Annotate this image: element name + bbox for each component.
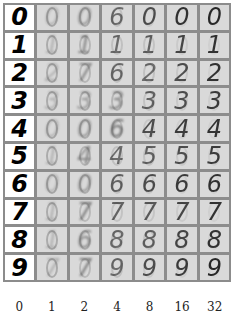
reconstructed-digit-glyph: 2 xyxy=(174,61,189,85)
reconstructed-digit-glyph: 0 xyxy=(44,5,59,29)
reconstructed-digit-glyph: 0 xyxy=(77,117,92,141)
reconstructed-digit-glyph: 3 xyxy=(44,89,59,113)
reconstructed-digit-glyph: 6 xyxy=(109,5,124,29)
column-label: 32 xyxy=(198,300,231,314)
reconstructed-digit-glyph: 6 xyxy=(77,228,92,252)
reconstructed-digit-glyph: 7 xyxy=(77,61,92,85)
reconstructed-digit-glyph: 4 xyxy=(109,144,124,168)
reconstruction-cell: 9 xyxy=(102,255,131,280)
reconstruction-cell: 7 xyxy=(70,200,99,225)
reconstructed-digit-glyph: 7 xyxy=(77,256,92,280)
digit-glyph: 2 xyxy=(11,61,28,85)
reconstructed-digit-glyph: 3 xyxy=(207,89,222,113)
original-digit-cell: 5 xyxy=(5,144,34,169)
reconstruction-cell: 6 xyxy=(102,5,131,30)
reconstructed-digit-glyph: 1 xyxy=(44,144,59,168)
reconstructed-digit-glyph: 7 xyxy=(207,200,222,224)
reconstructed-digit-glyph: 0 xyxy=(44,117,59,141)
digit-glyph: 3 xyxy=(11,89,28,113)
reconstruction-cell: 7 xyxy=(200,200,229,225)
digit-glyph: 1 xyxy=(11,33,28,57)
reconstructed-digit-glyph: 9 xyxy=(142,256,157,280)
reconstructed-digit-glyph: 5 xyxy=(142,144,157,168)
reconstructed-digit-glyph: 2 xyxy=(207,61,222,85)
reconstruction-cell: 4 xyxy=(135,116,164,141)
reconstruction-cell: 1 xyxy=(200,33,229,58)
reconstructed-digit-glyph: 1 xyxy=(44,228,59,252)
original-digit-cell: 0 xyxy=(5,5,34,30)
reconstructed-digit-glyph: 3 xyxy=(174,89,189,113)
reconstructed-digit-glyph: 5 xyxy=(174,144,189,168)
digit-glyph: 6 xyxy=(11,172,28,196)
reconstruction-cell: 6 xyxy=(135,172,164,197)
column-label: 8 xyxy=(133,300,166,314)
reconstructed-digit-glyph: 6 xyxy=(174,172,189,196)
reconstructed-digit-glyph: 4 xyxy=(142,117,157,141)
reconstruction-cell: 4 xyxy=(167,116,196,141)
reconstructed-digit-glyph: 4 xyxy=(207,117,222,141)
reconstruction-cell: 7 xyxy=(167,200,196,225)
reconstruction-cell: 1 xyxy=(135,33,164,58)
digit-glyph: 7 xyxy=(11,200,28,224)
reconstructed-digit-glyph: 4 xyxy=(174,117,189,141)
reconstruction-cell: 3 xyxy=(70,88,99,113)
reconstructed-digit-glyph: 0 xyxy=(174,5,189,29)
reconstruction-cell: 6 xyxy=(102,116,131,141)
reconstruction-cell: 9 xyxy=(200,255,229,280)
digit-glyph: 8 xyxy=(11,228,28,252)
original-digit-cell: 6 xyxy=(5,172,34,197)
reconstruction-cell: 0 xyxy=(200,5,229,30)
reconstructed-digit-glyph: 8 xyxy=(174,228,189,252)
reconstructed-digit-glyph: 1 xyxy=(77,33,92,57)
reconstruction-cell: 3 xyxy=(167,88,196,113)
reconstruction-cell: 7 xyxy=(70,61,99,86)
reconstruction-cell: 5 xyxy=(167,144,196,169)
reconstruction-cell: 1 xyxy=(37,227,66,252)
reconstruction-cell: 5 xyxy=(200,144,229,169)
reconstruction-cell: 1 xyxy=(37,144,66,169)
digit-glyph: 0 xyxy=(11,5,28,29)
column-label: 2 xyxy=(68,300,101,314)
reconstruction-cell: 6 xyxy=(70,227,99,252)
reconstructed-digit-glyph: 8 xyxy=(207,228,222,252)
reconstruction-cell: 2 xyxy=(167,61,196,86)
digit-glyph: 9 xyxy=(11,256,28,280)
reconstruction-cell: 7 xyxy=(70,255,99,280)
reconstructed-digit-glyph: 9 xyxy=(174,256,189,280)
reconstructed-digit-glyph: 0 xyxy=(77,172,92,196)
reconstructed-digit-glyph: 7 xyxy=(44,256,59,280)
reconstructed-digit-glyph: 1 xyxy=(44,200,59,224)
reconstructed-digit-glyph: 3 xyxy=(142,89,157,113)
reconstructed-digit-glyph: 5 xyxy=(207,144,222,168)
reconstruction-cell: 2 xyxy=(200,61,229,86)
original-digit-cell: 1 xyxy=(5,33,34,58)
reconstruction-cell: 1 xyxy=(70,33,99,58)
reconstruction-cell: 4 xyxy=(102,144,131,169)
reconstruction-cell: 0 xyxy=(37,5,66,30)
column-labels: 0 1 2 4 8 16 32 xyxy=(3,300,231,314)
digit-glyph: 4 xyxy=(11,117,28,141)
column-label: 1 xyxy=(36,300,69,314)
reconstructed-digit-glyph: 0 xyxy=(207,5,222,29)
reconstruction-cell: 5 xyxy=(135,144,164,169)
reconstruction-cell: 6 xyxy=(102,61,131,86)
reconstruction-cell: 3 xyxy=(135,88,164,113)
digit-grid: 0006000111111122762223333333400644451445… xyxy=(3,3,231,282)
reconstruction-cell: 3 xyxy=(37,88,66,113)
reconstruction-cell: 1 xyxy=(102,33,131,58)
reconstruction-cell: 0 xyxy=(37,172,66,197)
reconstruction-cell: 7 xyxy=(102,200,131,225)
reconstructed-digit-glyph: 6 xyxy=(109,172,124,196)
reconstruction-cell: 2 xyxy=(135,61,164,86)
reconstruction-cell: 1 xyxy=(167,33,196,58)
reconstructed-digit-glyph: 3 xyxy=(109,89,124,113)
reconstructed-digit-glyph: 8 xyxy=(109,228,124,252)
reconstructed-digit-glyph: 3 xyxy=(77,89,92,113)
reconstruction-cell: 8 xyxy=(200,227,229,252)
reconstructed-digit-glyph: 6 xyxy=(207,172,222,196)
reconstruction-cell: 4 xyxy=(200,116,229,141)
original-digit-cell: 4 xyxy=(5,116,34,141)
reconstructed-digit-glyph: 1 xyxy=(207,33,222,57)
reconstructed-digit-glyph: 0 xyxy=(44,172,59,196)
digit-glyph: 5 xyxy=(11,144,28,168)
